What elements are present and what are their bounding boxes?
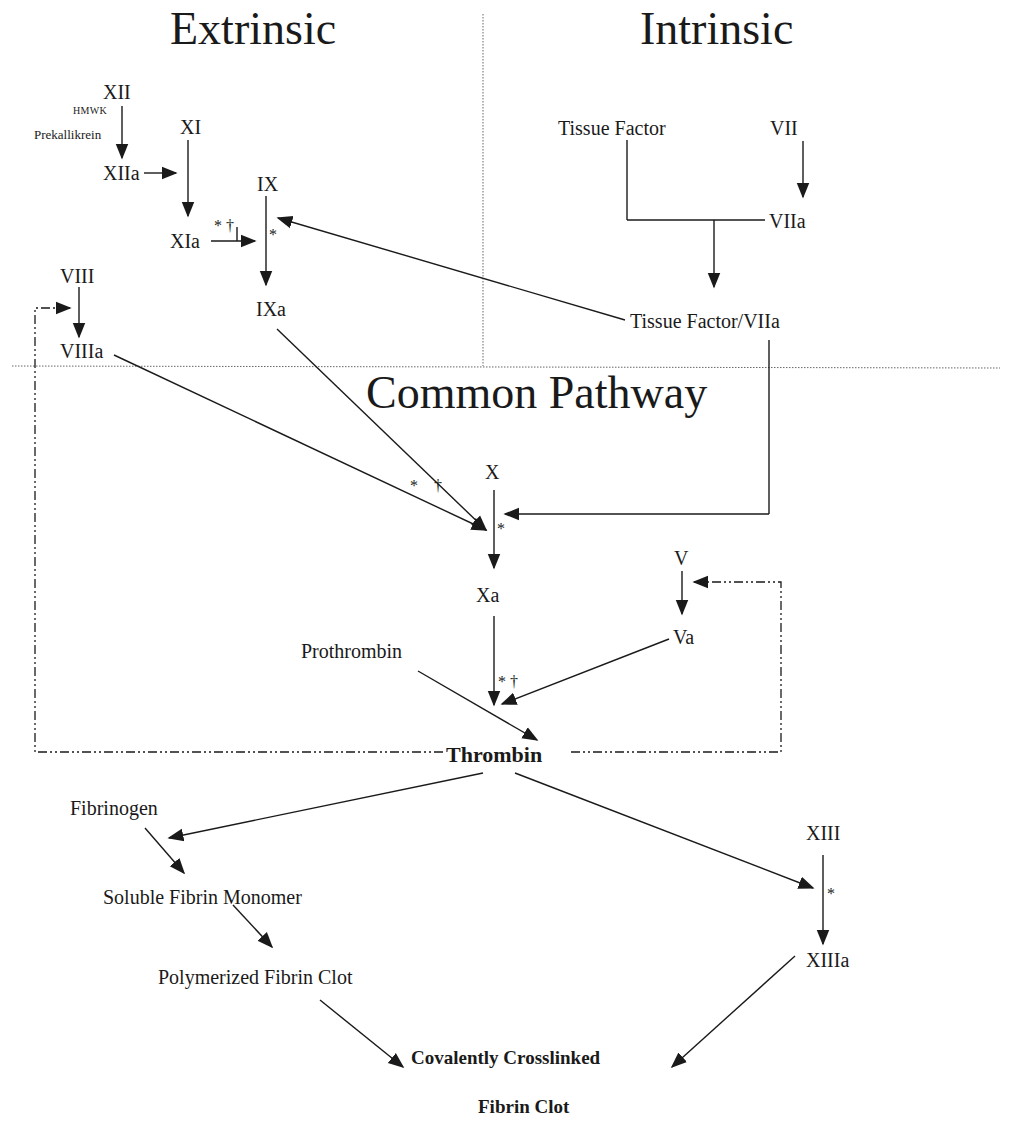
- section-title-extrinsic: Extrinsic: [170, 6, 336, 52]
- node-vii: VII: [770, 118, 798, 138]
- node-viii: VIII: [60, 266, 94, 286]
- node-hmwk: HMWK: [73, 106, 107, 116]
- node-prekallikrein: Prekallikrein: [34, 128, 101, 141]
- node-xii: XII: [103, 82, 131, 102]
- node-fibrinogen: Fibrinogen: [70, 798, 158, 818]
- node-soluble-fibrin-monomer: Soluble Fibrin Monomer: [103, 887, 302, 907]
- node-viiia: VIIIa: [60, 341, 103, 361]
- node-xa: Xa: [476, 585, 499, 605]
- node-xia: XIa: [170, 231, 200, 251]
- node-polymerized-fibrin-clot: Polymerized Fibrin Clot: [158, 967, 352, 987]
- section-title-intrinsic: Intrinsic: [640, 6, 793, 52]
- node-va: Va: [673, 627, 694, 647]
- node-prothrombin: Prothrombin: [301, 641, 402, 661]
- node-xiia: XIIa: [103, 163, 140, 183]
- marker-asterisk-dagger-x: * †: [410, 478, 442, 494]
- marker-asterisk-ix: *: [269, 227, 277, 243]
- node-ix: IX: [257, 174, 278, 194]
- marker-asterisk-dagger-xa: * †: [498, 674, 518, 690]
- diagram-connectors: [0, 0, 1010, 1124]
- section-dividers: [12, 14, 1000, 368]
- section-title-common-pathway: Common Pathway: [366, 370, 707, 416]
- node-xiii: XIII: [806, 823, 840, 843]
- marker-asterisk-xiii: *: [827, 886, 835, 902]
- marker-asterisk-x: *: [497, 521, 505, 537]
- node-ixa: IXa: [256, 299, 286, 319]
- coagulation-cascade-diagram: Extrinsic Intrinsic Common Pathway XII H…: [0, 0, 1010, 1124]
- node-tissue-factor-viia: Tissue Factor/VIIa: [630, 311, 780, 331]
- node-xi: XI: [180, 117, 201, 137]
- node-viia: VIIa: [769, 211, 806, 231]
- node-thrombin: Thrombin: [446, 744, 542, 766]
- node-xiiia: XIIIa: [806, 950, 849, 970]
- node-x: X: [485, 462, 499, 482]
- marker-asterisk-dagger-xia: * †: [214, 218, 234, 234]
- node-fibrin-clot: Fibrin Clot: [478, 1097, 569, 1116]
- node-v: V: [674, 548, 688, 568]
- node-tissue-factor: Tissue Factor: [558, 118, 666, 138]
- node-covalently-crosslinked: Covalently Crosslinked: [411, 1048, 600, 1067]
